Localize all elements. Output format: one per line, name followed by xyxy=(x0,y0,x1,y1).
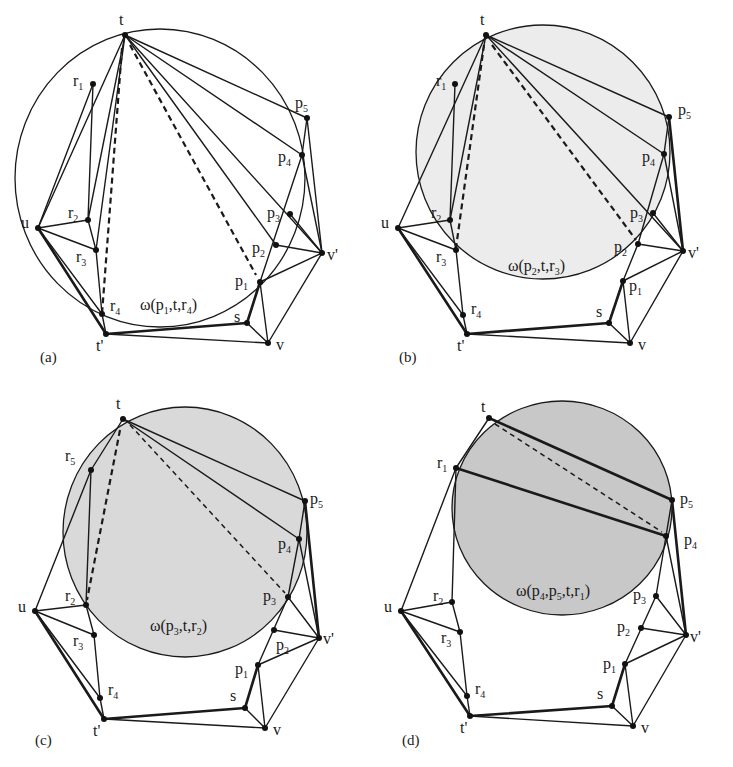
panel-b: t r1 u r2 r3 r4 t' s v v' p1 p2 p3 p4 p5… xyxy=(381,11,699,366)
label-t: t xyxy=(116,395,121,412)
label-s: s xyxy=(234,308,240,325)
label-p5: p5 xyxy=(678,101,691,121)
label-t-prime: t' xyxy=(96,337,103,354)
label-r4: r4 xyxy=(110,297,120,317)
label-t: t xyxy=(119,11,124,28)
label-u: u xyxy=(21,214,29,231)
label-t-prime: t' xyxy=(460,719,467,736)
label-r1: r1 xyxy=(73,72,83,92)
label-r2: r2 xyxy=(65,587,75,607)
panel-d: t r1 u r2 r3 r4 t' s v v' p1 p2 p3 p4 p5… xyxy=(384,398,701,749)
label-t: t xyxy=(481,398,486,415)
label-u: u xyxy=(384,598,392,615)
label-u: u xyxy=(18,598,26,615)
label-p1: p1 xyxy=(629,277,642,297)
label-u: u xyxy=(381,214,389,231)
label-p5: p5 xyxy=(310,490,323,510)
label-v-prime: v' xyxy=(688,244,699,261)
label-p4: p4 xyxy=(684,531,697,551)
label-v-prime: v' xyxy=(323,630,334,647)
circle-label-a: ω(p1,t,r4) xyxy=(140,296,197,316)
label-p2: p2 xyxy=(252,239,265,259)
caption-a: (a) xyxy=(40,349,57,366)
label-s: s xyxy=(230,687,236,704)
label-r3: r3 xyxy=(76,248,86,268)
label-r3: r3 xyxy=(441,629,451,649)
panel-a: t r1 u r2 r3 r4 t' s v v' p1 p2 p3 p4 p5… xyxy=(15,11,338,366)
label-t-prime: t' xyxy=(93,722,100,739)
label-r3: r3 xyxy=(436,248,446,268)
label-v-prime: v' xyxy=(327,246,338,263)
label-p1: p1 xyxy=(235,272,248,292)
label-v: v xyxy=(276,336,284,353)
label-r5: r5 xyxy=(65,447,75,467)
caption-c: (c) xyxy=(35,732,52,749)
label-v-prime: v' xyxy=(690,628,701,645)
label-p1: p1 xyxy=(603,655,616,675)
label-r2: r2 xyxy=(68,204,78,224)
label-r4: r4 xyxy=(108,681,118,701)
label-p3: p3 xyxy=(633,586,646,606)
label-r4: r4 xyxy=(471,300,481,320)
label-r2: r2 xyxy=(433,587,443,607)
label-p5: p5 xyxy=(680,490,693,510)
caption-d: (d) xyxy=(402,732,420,749)
label-t: t xyxy=(480,11,485,28)
label-t-prime: t' xyxy=(457,337,464,354)
label-r1: r1 xyxy=(437,454,447,474)
label-v: v xyxy=(641,719,649,736)
label-v: v xyxy=(638,336,646,353)
caption-b: (b) xyxy=(399,349,417,366)
panel-c: t r5 u r2 r3 r4 t' s v v' p1 p2 p3 p4 p5… xyxy=(18,395,334,749)
label-s: s xyxy=(597,685,603,702)
label-r3: r3 xyxy=(73,632,83,652)
label-v: v xyxy=(273,721,281,738)
label-p3: p3 xyxy=(267,204,280,224)
label-p2: p2 xyxy=(617,618,630,638)
figure-canvas: t r1 u r2 r3 r4 t' s v v' p1 p2 p3 p4 p5… xyxy=(0,0,733,767)
label-p2: p2 xyxy=(276,636,289,656)
label-p1: p1 xyxy=(235,660,248,680)
label-p4: p4 xyxy=(278,148,291,168)
label-r4: r4 xyxy=(475,680,485,700)
label-p5: p5 xyxy=(295,94,308,114)
label-s: s xyxy=(596,303,602,320)
